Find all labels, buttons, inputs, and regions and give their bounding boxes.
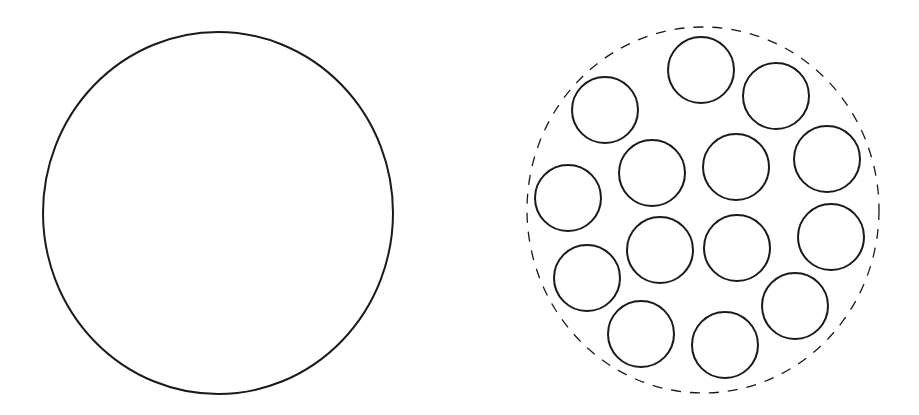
small-circle: [794, 126, 860, 192]
small-circle: [798, 204, 864, 270]
small-circle: [619, 140, 685, 206]
small-circle: [743, 63, 809, 129]
small-circle: [762, 273, 828, 339]
dashed-bundle-outline: [527, 27, 879, 393]
diagram-canvas: [0, 0, 919, 415]
small-circle: [692, 312, 758, 378]
small-circle: [627, 217, 693, 283]
single-large-circle: [43, 32, 393, 394]
small-circle: [608, 301, 674, 367]
small-circle: [572, 77, 638, 143]
small-circle: [554, 245, 620, 311]
small-circle: [703, 134, 769, 200]
small-circle: [535, 165, 601, 231]
small-circle: [668, 37, 734, 103]
small-circle: [704, 215, 770, 281]
circle-comparison-diagram: [0, 0, 919, 415]
small-circles: [535, 37, 864, 378]
single-large-circle-group: [43, 32, 393, 394]
bundle-of-small-circles-group: [527, 27, 879, 393]
